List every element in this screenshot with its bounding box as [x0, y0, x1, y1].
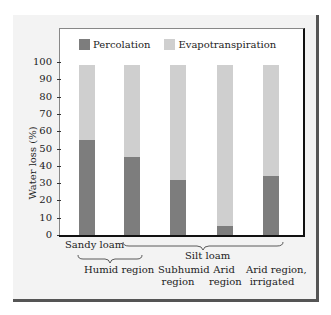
y-tick [57, 131, 61, 132]
arid-line-1: Arid [209, 264, 239, 276]
y-tick-label: 80 [30, 92, 52, 102]
label-silt-loam: Silt loam [185, 250, 230, 262]
bar-segment-evapotranspiration [217, 65, 233, 235]
y-tick [57, 62, 61, 63]
bar-segment-percolation [170, 180, 186, 235]
bar [79, 65, 95, 235]
y-tick [57, 218, 61, 219]
percolation-swatch [79, 39, 90, 50]
bar [217, 65, 233, 235]
bar-segment-percolation [79, 140, 95, 235]
legend-item-percolation: Percolation [79, 39, 150, 50]
legend: Percolation Evapotranspiration [79, 39, 290, 50]
silt-loam-brace [123, 242, 283, 250]
label-humid-region: Humid region [84, 264, 154, 276]
legend-label-percolation: Percolation [93, 39, 150, 50]
y-tick-label: 100 [30, 57, 52, 67]
bar [170, 65, 186, 235]
y-tick-label: 10 [30, 213, 52, 223]
humid-region-brace [78, 255, 142, 263]
y-tick [57, 97, 61, 98]
bar-segment-percolation [217, 226, 233, 235]
bar [263, 65, 279, 235]
y-axis-label: Water loss (%) [27, 126, 38, 199]
y-tick-label: 90 [30, 74, 52, 84]
label-subhumid-region: Subhumid region [158, 264, 198, 288]
label-arid-irrigated: Arid region, irrigated [246, 264, 298, 288]
y-tick [57, 166, 61, 167]
arid-irrigated-line-2: irrigated [246, 276, 298, 288]
legend-item-evapotranspiration: Evapotranspiration [164, 39, 276, 50]
y-tick [57, 183, 61, 184]
y-tick [57, 114, 61, 115]
label-sandy-loam: Sandy loam [65, 239, 124, 251]
bar-segment-percolation [124, 157, 140, 235]
arid-irrigated-line-1: Arid region, [246, 264, 298, 276]
label-arid-region: Arid region [209, 264, 239, 288]
legend-label-evapotranspiration: Evapotranspiration [178, 39, 276, 50]
arid-line-2: region [209, 276, 239, 288]
subhumid-line-1: Subhumid [158, 264, 198, 276]
bar [124, 65, 140, 235]
y-tick [57, 149, 61, 150]
x-axis [59, 235, 305, 237]
y-tick [57, 79, 61, 80]
subhumid-line-2: region [158, 276, 198, 288]
y-tick [57, 200, 61, 201]
evapotranspiration-swatch [164, 39, 175, 50]
y-tick-label: 0 [30, 230, 52, 240]
bar-segment-percolation [263, 176, 279, 235]
y-tick-label: 70 [30, 109, 52, 119]
